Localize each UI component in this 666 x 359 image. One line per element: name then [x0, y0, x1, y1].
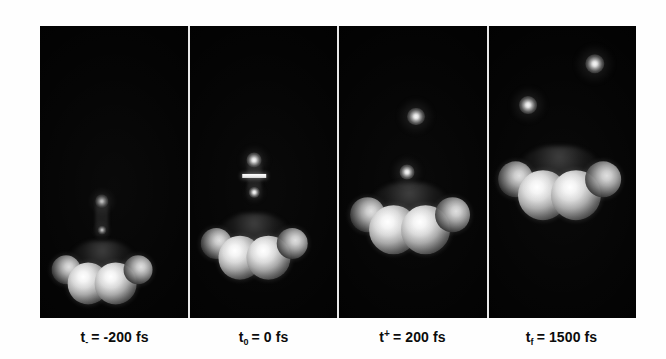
caption-symbol: tf	[526, 329, 534, 345]
caption-value: 1500 fs	[549, 329, 597, 345]
panel-strip	[40, 26, 636, 318]
cluster-sphere-4	[585, 162, 621, 198]
caption-subscript: f	[531, 337, 534, 347]
caption-equals: =	[537, 329, 545, 345]
fragment-upper	[407, 108, 425, 126]
fragment-upper	[585, 54, 604, 73]
molecular-cluster	[53, 230, 150, 306]
fragment-lower	[519, 96, 537, 114]
molecular-cluster	[203, 203, 306, 282]
bond-bar	[243, 174, 267, 178]
fragment-upper	[247, 153, 262, 168]
caption-equals: =	[393, 329, 401, 345]
panel-1	[40, 26, 188, 318]
caption-value: -200 fs	[104, 329, 149, 345]
panel-1-caption: t- = -200 fs	[40, 322, 189, 352]
caption-subscript: -	[85, 337, 88, 347]
caption-symbol: t+	[379, 329, 390, 345]
caption-row: t- = -200 fs t0 = 0 fs t+ = 200 fs tf = …	[40, 322, 636, 352]
cluster-sphere-4	[435, 197, 470, 232]
caption-superscript: +	[384, 328, 390, 339]
caption-symbol: t-	[80, 329, 88, 345]
caption-symbol: t0	[239, 329, 249, 345]
caption-equals: =	[252, 329, 260, 345]
cluster-sphere-4	[277, 228, 308, 259]
caption-value: 0 fs	[264, 329, 289, 345]
cluster-sphere-4	[123, 255, 153, 285]
panel-4	[487, 26, 637, 318]
molecular-cluster	[500, 134, 618, 222]
caption-equals: =	[91, 329, 99, 345]
panel-2	[188, 26, 338, 318]
panel-2-caption: t0 = 0 fs	[189, 322, 338, 352]
figure-root: t- = -200 fs t0 = 0 fs t+ = 200 fs tf = …	[0, 0, 666, 359]
panel-3-caption: t+ = 200 fs	[338, 322, 487, 352]
fragment-upper	[95, 194, 108, 207]
molecular-cluster	[352, 171, 467, 256]
caption-value: 200 fs	[405, 329, 445, 345]
panel-4-caption: tf = 1500 fs	[487, 322, 636, 352]
caption-subscript: 0	[243, 337, 248, 347]
fragment-lower	[249, 187, 259, 197]
panel-3	[337, 26, 487, 318]
